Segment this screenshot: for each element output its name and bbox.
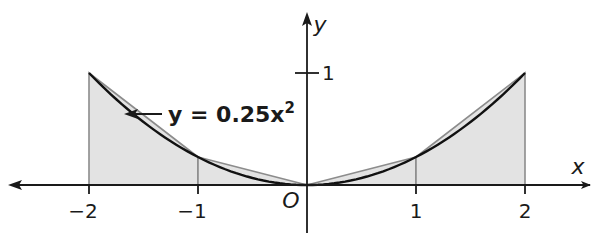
y-tick-label: 1 [322,61,335,85]
trapezoid-3 [307,157,416,185]
trapezoid-area-figure: −2−112 1 x y O y = 0.25x2 [0,0,601,233]
x-axis-label: x [570,154,585,179]
y-ticks: 1 [295,61,335,85]
origin-label: O [282,188,299,213]
trapezoid-2 [198,157,307,185]
x-ticks: −2−112 [68,184,531,223]
x-tick-label: 1 [410,199,423,223]
curve-equation-text: y = 0.25x [168,102,285,127]
x-tick-label: −1 [177,199,206,223]
x-tick-label: −2 [68,199,97,223]
y-axis-label: y [312,12,327,37]
x-tick-label: 2 [519,199,532,223]
curve-equation-label: y = 0.25x2 [168,99,295,127]
curve-equation-exponent: 2 [285,99,295,117]
